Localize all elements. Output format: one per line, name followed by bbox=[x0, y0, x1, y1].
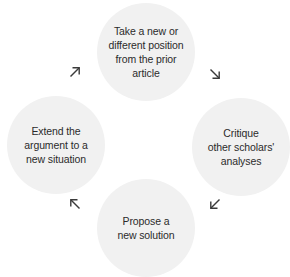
node-label: Critique other scholars' analyses bbox=[208, 126, 274, 168]
arrow-northwest-icon bbox=[69, 198, 81, 210]
node-critique-scholars: Critique other scholars' analyses bbox=[192, 98, 290, 196]
node-label: Propose a new solution bbox=[117, 214, 174, 242]
arrow-southeast-icon bbox=[209, 68, 221, 80]
node-take-new-position: Take a new or different position from th… bbox=[97, 3, 195, 101]
arrow-northeast-icon bbox=[69, 66, 81, 78]
node-label: Extend the argument to a new situation bbox=[24, 124, 88, 166]
node-label: Take a new or different position from th… bbox=[108, 24, 183, 80]
node-extend-argument: Extend the argument to a new situation bbox=[7, 96, 105, 194]
node-propose-solution: Propose a new solution bbox=[97, 179, 195, 277]
arrow-southwest-icon bbox=[209, 198, 221, 210]
